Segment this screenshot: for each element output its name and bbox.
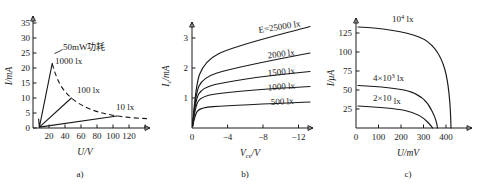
- panel-a-ytick-10: 10: [21, 93, 31, 103]
- panel-c-ytick-100: 100: [339, 47, 353, 57]
- panel-c-xtick-200: 200: [394, 132, 408, 142]
- panel-a-annotations: 50mW功耗 1000 lx 100 lx 10 lx: [55, 42, 135, 112]
- panel-b-plot: 0 −4 −8 −12 1 2 3: [155, 0, 325, 185]
- panel-c-xtick-400: 400: [439, 132, 453, 142]
- panel-c-xtick-0: 0: [354, 132, 359, 142]
- curve-25000lx: [193, 27, 311, 127]
- panel-a-xtick-20: 20: [45, 131, 55, 141]
- panel-a-yticks: 0 5 10 15 20 25 30 35: [21, 18, 37, 133]
- panel-a-xtick-80: 80: [93, 131, 103, 141]
- panel-a-xtick-40: 40: [61, 131, 71, 141]
- panel-c-annotations: 104 lx 4×103 lx 2×10 lx: [373, 13, 414, 106]
- panel-c-ytick-25: 25: [343, 104, 353, 114]
- panel-c-xtick-100: 100: [372, 132, 386, 142]
- panel-b: 0 −4 −8 −12 1 2 3: [155, 0, 325, 185]
- panel-a-xtick-100: 100: [106, 131, 120, 141]
- figure-container: 20 40 60 80 100 120 0 5 10 15: [0, 0, 482, 185]
- panel-c-xticks: 0 100 200 300 400: [354, 125, 454, 143]
- panel-a-ylabel: I/mA: [4, 67, 14, 87]
- panel-b-ylabel-unit: /mA: [161, 65, 171, 82]
- panel-a-axes: [31, 16, 150, 130]
- panel-c-curves: [358, 27, 451, 128]
- panel-a-xtick-60: 60: [77, 131, 87, 141]
- illuminance-4e3lx-label: 4×103 lx: [373, 72, 405, 83]
- illuminance-2e1lx-unit: lx: [392, 96, 402, 106]
- panel-b-xtick-m8: −8: [258, 132, 268, 142]
- curve-1e4lx: [358, 27, 451, 128]
- panel-b-curves: [193, 27, 311, 127]
- panel-b-ytick-2: 2: [184, 63, 189, 73]
- panel-a-xticks: 20 40 60 80 100 120: [45, 125, 146, 142]
- panel-b-annotations: E=25000 lx 2000 lx 1500 lx 1000 lx 500 l…: [258, 18, 302, 107]
- panel-b-xticks: 0 −4 −8 −12: [190, 125, 306, 143]
- illuminance-1e4lx-unit: lx: [404, 14, 414, 24]
- panel-b-ytick-3: 3: [184, 33, 189, 43]
- illuminance-500lx-label: 500 lx: [271, 96, 295, 107]
- panel-a-xtick-120: 120: [122, 131, 136, 141]
- panel-c-xlabel: U/mV: [397, 148, 420, 158]
- panel-b-xtick-m4: −4: [223, 132, 233, 142]
- panel-c: 0 100 200 300 400 25 50 75 100 125: [320, 0, 482, 185]
- panel-c-subcaption: c): [405, 169, 412, 179]
- illuminance-25000lx-label: E=25000 lx: [258, 18, 302, 35]
- illuminance-1500lx-label: 1500 lx: [267, 66, 296, 78]
- curve-10lx-loadline: [39, 116, 117, 127]
- illuminance-2e1lx-label: 2×10 lx: [373, 93, 401, 106]
- panel-a-subcaption: a): [77, 169, 84, 179]
- illuminance-1000lx-label: 1000 lx: [267, 81, 295, 93]
- panel-a: 20 40 60 80 100 120 0 5 10 15: [0, 0, 160, 185]
- illuminance-100lx-label: 100 lx: [77, 85, 100, 95]
- panel-b-xtick-0: 0: [190, 132, 195, 142]
- illuminance-2e1lx-base: 2×10: [373, 93, 392, 103]
- panel-a-ytick-30: 30: [21, 33, 31, 43]
- illuminance-1e4lx-label: 104 lx: [392, 13, 414, 24]
- panel-a-ytick-20: 20: [21, 63, 31, 73]
- panel-c-ytick-75: 75: [343, 66, 353, 76]
- panel-a-ytick-5: 5: [26, 108, 31, 118]
- panel-a-curves: [39, 64, 147, 128]
- curve-2e1lx: [358, 106, 433, 128]
- panel-b-ylabel: Ic/mA: [161, 65, 172, 88]
- panel-a-ytick-25: 25: [21, 48, 31, 58]
- panel-b-xlabel: Vce/V: [240, 148, 261, 159]
- panel-a-xlabel: U/V: [77, 147, 94, 157]
- panel-b-xlabel-unit: /V: [251, 148, 262, 158]
- panel-c-ytick-125: 125: [339, 28, 353, 38]
- panel-a-plot: 20 40 60 80 100 120 0 5 10 15: [0, 0, 160, 185]
- panel-c-ylabel: I/μA: [326, 70, 336, 88]
- power-dissipation-label: 50mW功耗: [63, 42, 106, 52]
- illuminance-1000lx-label: 1000 lx: [55, 56, 83, 66]
- illuminance-4e3lx-base: 4×10: [373, 73, 392, 83]
- panel-c-plot: 0 100 200 300 400 25 50 75 100 125: [320, 0, 482, 185]
- panel-a-ytick-0: 0: [26, 123, 31, 133]
- panel-c-xtick-300: 300: [417, 132, 431, 142]
- illuminance-4e3lx-unit: lx: [395, 73, 405, 83]
- panel-b-subcaption: b): [241, 169, 249, 179]
- panel-b-xtick-m12: −12: [291, 132, 305, 142]
- illuminance-10lx-label: 10 lx: [116, 102, 135, 112]
- panel-a-ytick-15: 15: [21, 78, 31, 88]
- panel-b-ytick-1: 1: [184, 93, 189, 103]
- illuminance-2000lx-label: 2000 lx: [267, 47, 296, 60]
- panel-c-ytick-50: 50: [343, 85, 353, 95]
- panel-a-ytick-35: 35: [21, 18, 31, 28]
- panel-b-yticks: 1 2 3: [184, 33, 196, 103]
